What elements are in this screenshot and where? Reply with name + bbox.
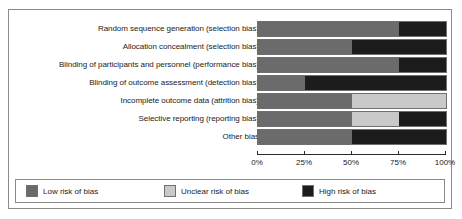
stacked-bar xyxy=(257,111,447,127)
bar-segment-high-risk xyxy=(305,76,446,90)
x-axis-tick-label: 0% xyxy=(251,158,263,167)
x-axis-tick xyxy=(304,151,305,155)
stacked-bar xyxy=(257,129,447,145)
bar-segment-high-risk xyxy=(352,40,446,54)
bar-segment-high-risk xyxy=(399,58,446,72)
bar-segment-low-risk xyxy=(258,112,352,126)
bar-segment-low-risk xyxy=(258,76,305,90)
legend-swatch-high-risk xyxy=(302,185,314,197)
legend-swatch-low-risk xyxy=(26,185,38,197)
bar-segment-low-risk xyxy=(258,40,352,54)
bar-segment-low-risk xyxy=(258,22,399,36)
bar-segment-high-risk xyxy=(352,130,446,144)
bar-segment-unclear-risk xyxy=(352,112,399,126)
plot-area: Random sequence generation (selection bi… xyxy=(9,10,451,170)
stacked-bar xyxy=(257,21,447,37)
bar-segment-high-risk xyxy=(399,22,446,36)
x-axis: 0%25%50%75%100% xyxy=(257,154,445,180)
x-axis-tick xyxy=(257,151,258,155)
x-axis-tick xyxy=(351,151,352,155)
legend-label: Low risk of bias xyxy=(43,187,98,196)
chart-legend: Low risk of biasUnclear risk of biasHigh… xyxy=(15,179,445,203)
category-label: Selective reporting (reporting bias) xyxy=(13,114,259,124)
category-label: Blinding of participants and personnel (… xyxy=(13,60,259,70)
legend-swatch-unclear-risk xyxy=(164,185,176,197)
bar-segment-low-risk xyxy=(258,130,352,144)
bar-segment-low-risk xyxy=(258,94,352,108)
bar-row: Blinding of outcome assessment (detectio… xyxy=(9,74,451,92)
bar-row: Other bias xyxy=(9,128,451,146)
bar-row: Allocation concealment (selection bias) xyxy=(9,38,451,56)
x-axis-tick-label: 75% xyxy=(390,158,406,167)
stacked-bar xyxy=(257,39,447,55)
category-label: Allocation concealment (selection bias) xyxy=(13,42,259,52)
legend-item: High risk of bias xyxy=(302,185,376,197)
x-axis-tick xyxy=(398,151,399,155)
x-axis-tick-label: 25% xyxy=(296,158,312,167)
x-axis-tick xyxy=(445,151,446,155)
category-label: Blinding of outcome assessment (detectio… xyxy=(13,78,259,88)
category-label: Random sequence generation (selection bi… xyxy=(13,24,259,34)
legend-label: Unclear risk of bias xyxy=(181,187,249,196)
category-label: Incomplete outcome data (attrition bias) xyxy=(13,96,259,106)
stacked-bar xyxy=(257,75,447,91)
legend-item: Unclear risk of bias xyxy=(164,185,249,197)
legend-item: Low risk of bias xyxy=(26,185,98,197)
bar-row: Incomplete outcome data (attrition bias) xyxy=(9,92,451,110)
bar-segment-high-risk xyxy=(399,112,446,126)
risk-of-bias-chart: Random sequence generation (selection bi… xyxy=(8,9,452,209)
stacked-bar xyxy=(257,57,447,73)
category-label: Other bias xyxy=(13,132,259,142)
bar-row: Random sequence generation (selection bi… xyxy=(9,20,451,38)
stacked-bar xyxy=(257,93,447,109)
bar-row: Blinding of participants and personnel (… xyxy=(9,56,451,74)
bar-segment-unclear-risk xyxy=(352,94,446,108)
bar-row: Selective reporting (reporting bias) xyxy=(9,110,451,128)
x-axis-tick-label: 100% xyxy=(435,158,455,167)
x-axis-tick-label: 50% xyxy=(343,158,359,167)
legend-label: High risk of bias xyxy=(319,187,376,196)
bar-segment-low-risk xyxy=(258,58,399,72)
